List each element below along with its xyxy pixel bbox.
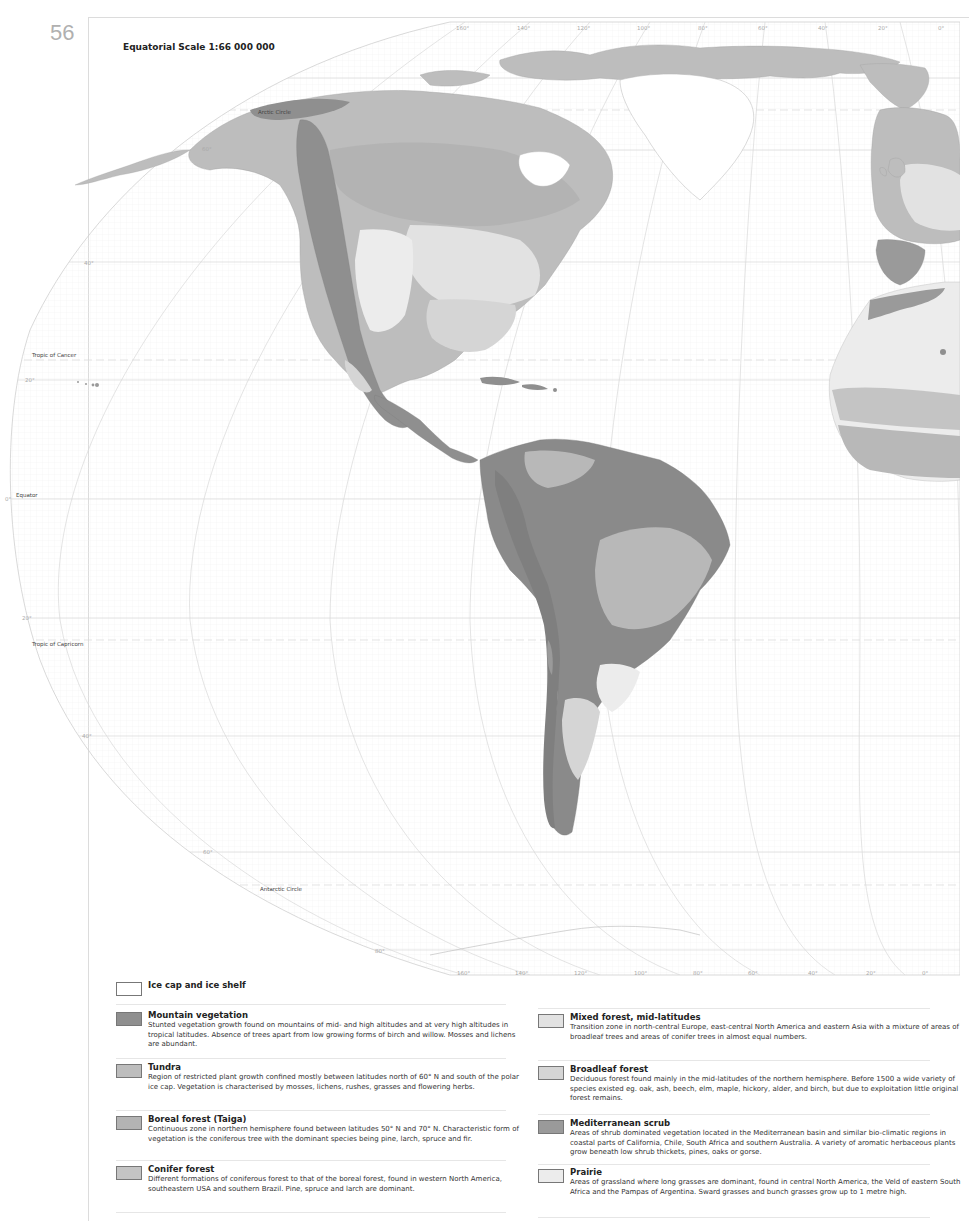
lon-label-top: 160° xyxy=(456,25,469,31)
lon-label-top: 40° xyxy=(818,25,828,31)
swatch-tundra xyxy=(116,1064,142,1078)
lon-label-bottom: 160° xyxy=(457,970,470,976)
lon-label-bottom: 140° xyxy=(515,970,528,976)
lon-label-top: 100° xyxy=(637,25,650,31)
swatch-conifer xyxy=(116,1166,142,1180)
swatch-mixed xyxy=(538,1014,564,1028)
swatch-mountain xyxy=(116,1012,142,1026)
lon-label-top: 140° xyxy=(517,25,530,31)
lat-label: 60° xyxy=(203,849,213,855)
arctic-circle-label: Arctic Circle xyxy=(258,109,291,115)
divider xyxy=(538,1164,930,1165)
lon-label-bottom: 80° xyxy=(693,970,703,976)
scale-label: Equatorial Scale 1:66 000 000 xyxy=(123,42,275,52)
divider xyxy=(538,1217,930,1218)
divider xyxy=(116,1004,506,1005)
divider xyxy=(538,1060,930,1061)
lon-label-bottom: 0° xyxy=(922,970,928,976)
divider xyxy=(538,1114,930,1115)
equator-label: Equator xyxy=(16,492,38,498)
swatch-mediterranean xyxy=(538,1120,564,1134)
lon-label-top: 80° xyxy=(698,25,708,31)
divider xyxy=(538,1008,930,1009)
lat-label: 40° xyxy=(82,733,92,739)
divider xyxy=(116,1212,506,1213)
swatch-broadleaf xyxy=(538,1066,564,1080)
lat-label: 80° xyxy=(375,948,385,954)
lon-label-top: 0° xyxy=(938,25,944,31)
lon-label-top: 120° xyxy=(577,25,590,31)
lon-label-top: 60° xyxy=(758,25,768,31)
lat-label: 60° xyxy=(202,146,212,152)
divider xyxy=(116,1160,506,1161)
swatch-prairie xyxy=(538,1169,564,1183)
lon-label-bottom: 100° xyxy=(634,970,647,976)
lat-label: 20° xyxy=(22,615,32,621)
lat-label: 40° xyxy=(84,260,94,266)
divider xyxy=(116,1058,506,1059)
lat-label: 20° xyxy=(25,377,35,383)
divider xyxy=(116,1110,506,1111)
lon-label-bottom: 60° xyxy=(748,970,758,976)
tropic-of-cancer-label: Tropic of Cancer xyxy=(32,352,76,358)
lon-label-bottom: 20° xyxy=(866,970,876,976)
swatch-boreal xyxy=(116,1116,142,1130)
world-vegetation-map xyxy=(0,0,960,990)
lat-label: 0° xyxy=(5,496,11,502)
tropic-of-capricorn-label: Tropic of Capricorn xyxy=(32,641,83,647)
lon-label-bottom: 40° xyxy=(808,970,818,976)
antarctic-circle-label: Antarctic Circle xyxy=(260,886,302,892)
swatch-ice-cap xyxy=(116,982,142,996)
lon-label-bottom: 120° xyxy=(574,970,587,976)
lon-label-top: 20° xyxy=(878,25,888,31)
